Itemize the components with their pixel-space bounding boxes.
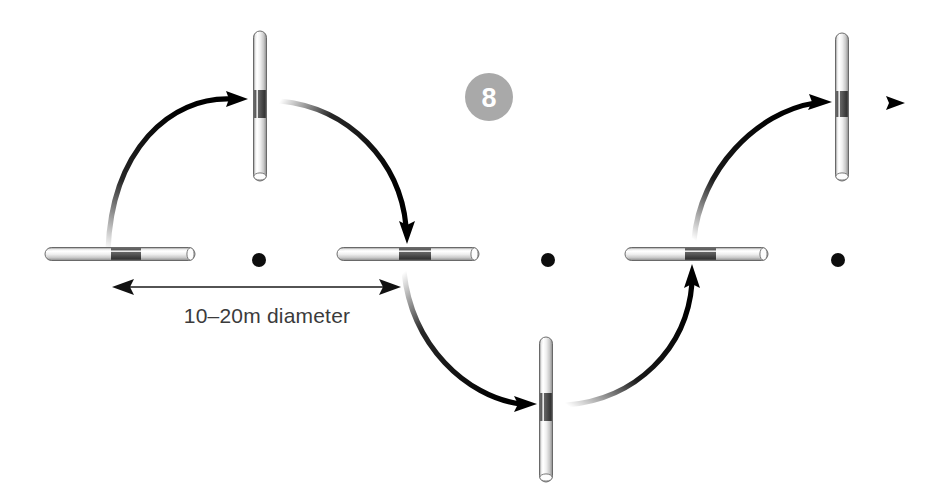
pivot-dot-3 [831,253,845,267]
rod-end-cap [187,248,194,260]
rod-end-cap [471,248,478,260]
rod-band [399,248,431,260]
rod-highlight [256,38,258,174]
rod-highlight [542,344,544,475]
arc-arrow-2 [280,101,415,244]
rod-vertical-3 [836,33,849,181]
pivot-dot-2 [541,253,555,267]
rod-end-cap [760,248,767,260]
dimension-label: 10–20m diameter [184,304,350,327]
arc-arrow-1 [108,91,248,250]
exit-arrow [858,96,905,110]
rod-horizontal-3 [625,248,768,261]
rod-highlight [52,250,188,252]
pivot-dot-1 [252,253,266,267]
rotation-sequence-diagram: 10–20m diameter 8 [0,0,950,500]
rod-band [836,91,848,117]
rod-end-cap [836,173,848,180]
rod-highlight [632,250,761,252]
rod-horizontal-2 [337,248,479,261]
rod-group [45,31,849,482]
rod-vertical-2 [540,337,553,482]
rod-highlight [344,250,472,252]
rod-end-cap [540,474,552,481]
rod-band [540,393,552,421]
arc-arrow-3 [404,272,537,412]
rod-band [254,90,266,118]
rod-end-cap [254,173,266,180]
diagram-canvas: 10–20m diameter 8 [0,0,950,500]
arc-arrow-5 [694,94,832,240]
rod-band [111,248,141,260]
diameter-dimension: 10–20m diameter [112,279,401,327]
rod-highlight [838,40,840,174]
rod-band [685,248,716,260]
step-number-badge: 8 [465,73,513,121]
rod-vertical-1 [254,31,267,181]
arrow-group [108,91,905,412]
rod-horizontal-1 [45,248,195,261]
arc-arrow-4 [567,264,700,405]
badge-label: 8 [481,83,496,113]
